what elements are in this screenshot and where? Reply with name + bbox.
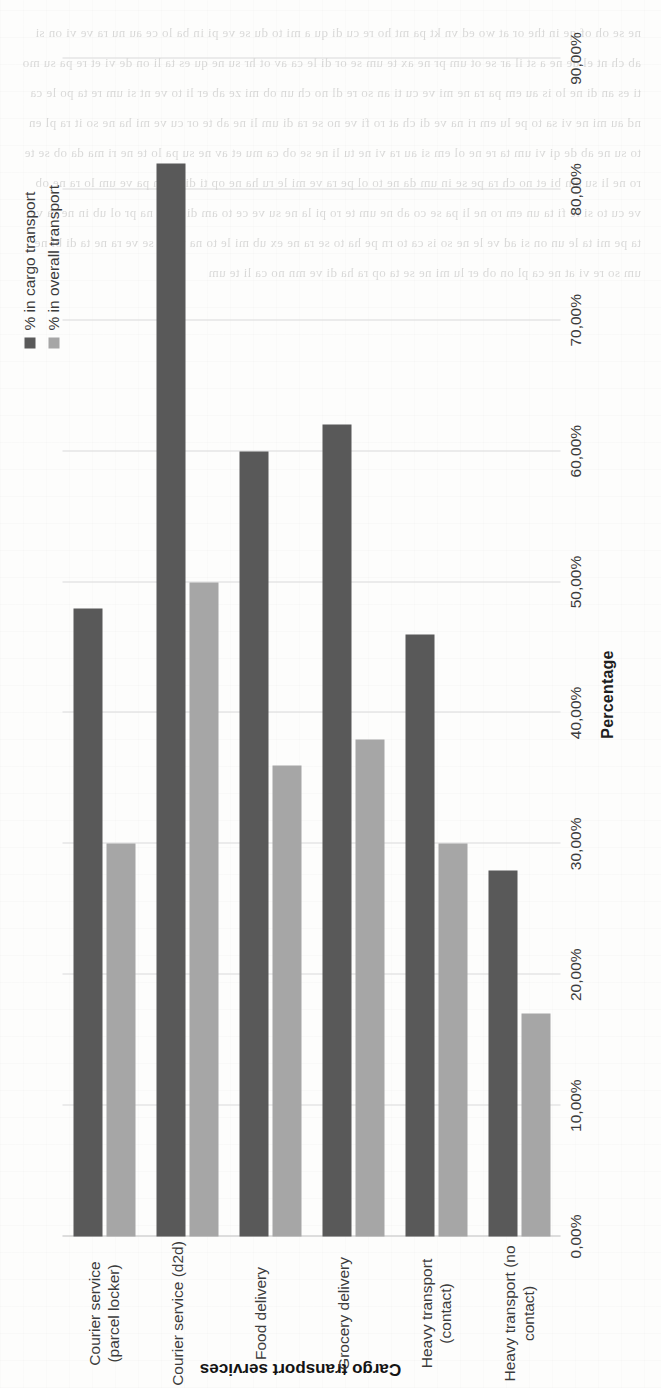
gridline [62,57,560,58]
value-tick-label: 80,00% [566,163,584,216]
gridline [62,319,560,320]
legend-item[interactable]: % in cargo transport [20,184,38,348]
category-label: Grocery delivery [333,1240,352,1386]
bar [73,608,102,1236]
value-tick-label: 70,00% [566,293,584,346]
rotated-figure-wrapper: 0,00%10,00%20,00%30,00%40,00%50,00%60,00… [0,0,661,1388]
bar [488,870,517,1236]
bar [189,582,218,1236]
value-tick-label: 30,00% [566,817,584,870]
value-axis-tick-labels: 0,00%10,00%20,00%30,00%40,00%50,00%60,00… [566,58,594,1236]
gridline [62,188,560,189]
legend-swatch-icon [48,337,59,348]
legend-item[interactable]: % in overall transport [44,184,62,348]
value-tick-label: 60,00% [566,424,584,477]
bar [438,843,467,1236]
bar [521,1014,550,1237]
bar [355,739,384,1236]
category-label: Courier service (parcel locker) [84,1240,122,1386]
category-label: Heavy transport (no contact) [499,1240,537,1386]
gridline [62,711,560,712]
gridline [62,842,560,843]
bar-chart: 0,00%10,00%20,00%30,00%40,00%50,00%60,00… [0,0,661,1388]
plot-area [62,58,560,1236]
bar [322,425,351,1237]
gridline [62,973,560,974]
value-tick-label: 40,00% [566,686,584,739]
value-tick-label: 90,00% [566,32,584,85]
gridline [62,1104,560,1105]
value-tick-label: 50,00% [566,555,584,608]
bar [272,765,301,1236]
value-axis-title: Percentage [598,0,616,1388]
value-axis-zero-line [62,1235,560,1236]
value-tick-label: 20,00% [566,948,584,1001]
value-axis-title-text: Percentage [598,650,616,738]
gridline [62,581,560,582]
legend-label: % in overall transport [44,184,62,330]
gridline [62,450,560,451]
value-tick-label: 0,00% [566,1214,584,1258]
category-label: Courier service (d2d) [167,1240,186,1386]
category-label: Heavy transport (contact) [416,1240,454,1386]
bar [239,451,268,1236]
value-tick-label: 10,00% [566,1079,584,1132]
chart-legend: % in cargo transport% in overall transpo… [20,184,68,348]
bar [405,634,434,1236]
legend-swatch-icon [24,337,35,348]
bar [156,163,185,1236]
bar [106,843,135,1236]
category-label: Food delivery [250,1240,269,1386]
legend-label: % in cargo transport [20,191,38,330]
